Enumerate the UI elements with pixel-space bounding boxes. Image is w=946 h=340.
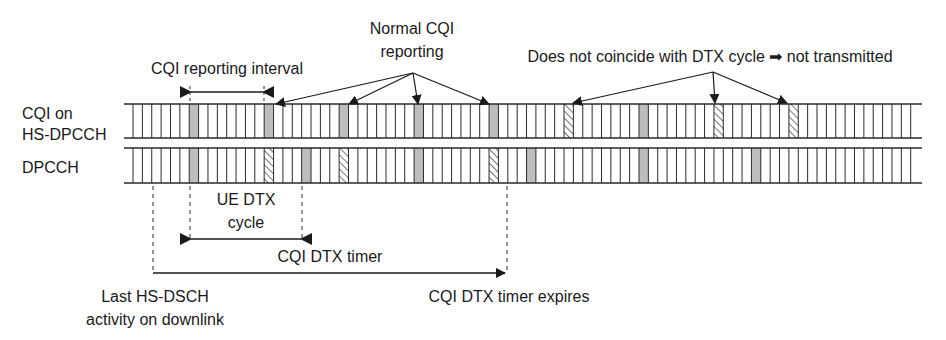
cqi-transmitted-cell <box>189 104 198 138</box>
dpcch-hatched-cell <box>339 148 348 183</box>
not-transmitted-label: Does not coincide with DTX cycle ➡ not t… <box>527 48 892 65</box>
row-labels: CQI on HS-DPCCH DPCCH <box>22 105 106 176</box>
dpcch-transmitted-cell <box>414 148 423 183</box>
timer-expires-label: CQI DTX timer expires <box>429 288 590 305</box>
cqi-transmitted-cell <box>414 104 423 138</box>
dpcch-transmitted-cell <box>751 148 760 183</box>
cqi-reporting-interval-label: CQI reporting interval <box>151 60 303 77</box>
cqi-dtx-timer-annotation: CQI DTX timer <box>153 248 505 273</box>
dpcch-transmitted-cell <box>639 148 648 183</box>
cqi-hatched-cell <box>714 104 723 138</box>
cqi-row-label-line1: CQI on <box>22 105 73 122</box>
dpcch-hatched-cell <box>264 148 273 183</box>
cqi-hs-dpcch-strip <box>124 104 922 138</box>
cqi-dtx-timer-label: CQI DTX timer <box>278 248 384 265</box>
last-activity-label-line1: Last HS-DSCH <box>101 288 209 305</box>
cqi-reporting-interval-annotation: CQI reporting interval <box>151 60 303 104</box>
ue-dtx-label-line1: UE DTX <box>217 191 276 208</box>
cqi-transmitted-cell <box>489 104 498 138</box>
dpcch-hatched-cell <box>489 148 498 183</box>
dpcch-transmitted-cell <box>302 148 311 183</box>
cqi-transmitted-cell <box>639 104 648 138</box>
normal-cqi-label-line2: reporting <box>380 43 443 60</box>
ue-dtx-cycle-annotation: UE DTX cycle <box>191 191 301 239</box>
normal-cqi-label-line1: Normal CQI <box>370 20 454 37</box>
cqi-transmitted-cell <box>339 104 348 138</box>
dpcch-strip <box>124 148 922 183</box>
bottom-captions: Last HS-DSCH activity on downlink CQI DT… <box>86 288 589 328</box>
dpcch-transmitted-cell <box>527 148 536 183</box>
ue-dtx-label-line2: cycle <box>228 214 265 231</box>
cqi-transmitted-cell <box>264 104 273 138</box>
cqi-hatched-cell <box>564 104 573 138</box>
not-transmitted-annotation: Does not coincide with DTX cycle ➡ not t… <box>527 48 892 103</box>
dpcch-transmitted-cell <box>189 148 198 183</box>
cqi-row-label-line2: HS-DPCCH <box>22 126 106 143</box>
normal-cqi-reporting-annotation: Normal CQI reporting <box>276 20 489 104</box>
dpcch-row-label: DPCCH <box>22 159 79 176</box>
last-activity-label-line2: activity on downlink <box>86 311 225 328</box>
cqi-hatched-cell <box>789 104 798 138</box>
cqi-dtx-diagram: CQI on HS-DPCCH DPCCH CQI reporting inte… <box>0 0 946 340</box>
